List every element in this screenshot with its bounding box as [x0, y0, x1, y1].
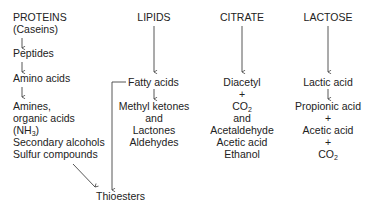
lactones-label: Lactones [114, 124, 194, 136]
and-label: and [202, 112, 282, 124]
acetic-acid-label: Acetic acid [202, 136, 282, 148]
thioesters-label: Thioesters [96, 190, 145, 202]
organic-acids-label: organic acids [13, 112, 75, 124]
sulfur-compounds-label: Sulfur compounds [13, 148, 98, 160]
secondary-alcohols-label: Secondary alcohols [13, 136, 105, 148]
caseins-label: (Caseins) [13, 23, 58, 35]
plus-sign: + [288, 136, 368, 148]
propionic-acid-label: Propionic acid [288, 100, 368, 112]
peptides-label: Peptides [13, 47, 54, 59]
lactose-header: LACTOSE [288, 11, 368, 23]
citrate-header: CITRATE [202, 11, 282, 23]
co2-label: CO2 [288, 148, 368, 160]
ethanol-label: Ethanol [202, 148, 282, 160]
and-label: and [114, 112, 194, 124]
methyl-ketones-label: Methyl ketones [114, 100, 194, 112]
fatty-acids-label: Fatty acids [128, 76, 179, 88]
plus-sign: + [288, 112, 368, 124]
proteins-header: PROTEINS [13, 11, 67, 23]
nh3-label: (NH3) [13, 124, 39, 136]
plus-sign: + [202, 88, 282, 100]
co2-label: CO2 [202, 100, 282, 112]
lactic-acid-label: Lactic acid [288, 76, 368, 88]
acetaldehyde-label: Acetaldehyde [202, 124, 282, 136]
diacetyl-label: Diacetyl [202, 76, 282, 88]
amines-label: Amines, [13, 100, 51, 112]
lipids-header: LIPIDS [124, 11, 184, 23]
amino-acids-label: Amino acids [13, 72, 70, 84]
acetic-acid-label: Acetic acid [288, 124, 368, 136]
arrow-sulfur-thioesters [73, 164, 95, 187]
aldehydes-label: Aldehydes [114, 136, 194, 148]
